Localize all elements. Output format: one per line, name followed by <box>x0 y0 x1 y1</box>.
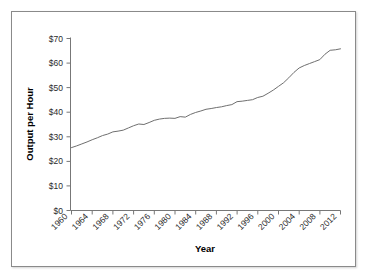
x-tick-label-1980: 1980 <box>152 211 173 232</box>
y-tick-label-30: $30 <box>49 132 63 142</box>
x-tick-label-2012: 2012 <box>318 211 339 232</box>
y-tick-label-60: $60 <box>49 58 63 68</box>
x-tick-label-1968: 1968 <box>90 211 111 232</box>
x-axis-title: Year <box>195 243 215 254</box>
x-tick-label-1976: 1976 <box>132 211 153 232</box>
x-tick-label-1988: 1988 <box>194 211 215 232</box>
x-tick-label-2008: 2008 <box>297 211 318 232</box>
x-tick-label-1992: 1992 <box>215 211 236 232</box>
y-tick-label-10: $10 <box>49 181 63 191</box>
y-tick-marks <box>67 39 71 211</box>
x-tick-label-1984: 1984 <box>173 211 194 232</box>
data-line-output-per-hour <box>72 49 341 148</box>
x-tick-label-1964: 1964 <box>70 211 91 232</box>
x-tick-label-2000: 2000 <box>256 211 277 232</box>
y-tick-label-70: $70 <box>49 34 63 44</box>
x-tick-label-1960: 1960 <box>49 211 70 232</box>
y-tick-label-20: $20 <box>49 156 63 166</box>
y-axis-title: Output per Hour <box>24 87 35 161</box>
y-tick-label-50: $50 <box>49 83 63 93</box>
x-tick-label-1972: 1972 <box>111 211 132 232</box>
chart-svg: $0 $10 $20 $30 $40 $50 $60 $70 1960 1964 <box>0 0 368 279</box>
y-tick-label-40: $40 <box>49 107 63 117</box>
x-tick-label-1996: 1996 <box>235 211 256 232</box>
x-tick-label-2004: 2004 <box>277 211 298 232</box>
figure-canvas: $0 $10 $20 $30 $40 $50 $60 $70 1960 1964 <box>0 0 368 279</box>
